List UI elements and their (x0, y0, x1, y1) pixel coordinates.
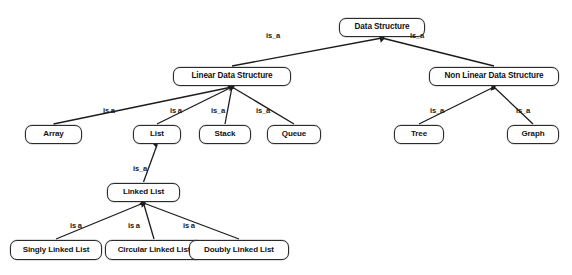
edge-linked-list-to-circular-linked-list (144, 203, 155, 239)
edge-label-linked-list-to-doubly-linked-list: is a (183, 221, 195, 230)
node-label: Doubly Linked List (201, 246, 277, 254)
edge-label-linked-list-to-circular-linked-list: is a (128, 221, 140, 230)
node-list[interactable]: List (133, 125, 181, 144)
node-label: Data Structure (351, 23, 412, 32)
node-doubly-linked-list[interactable]: Doubly Linked List (189, 240, 289, 260)
edge-label-linear-data-structure-to-list: is a (170, 106, 182, 115)
node-label: Queue (279, 130, 309, 138)
edge-label-linear-data-structure-to-queue: is_a (256, 106, 270, 115)
edge-linear-data-structure-to-array (54, 87, 233, 124)
node-label: Stack (212, 130, 239, 138)
node-label: Linked List (120, 188, 167, 196)
node-label: Tree (408, 130, 430, 138)
node-linear-data-structure[interactable]: Linear Data Structure (173, 67, 291, 86)
node-queue[interactable]: Queue (267, 125, 321, 144)
node-tree[interactable]: Tree (394, 125, 444, 144)
node-label: Singly Linked List (20, 246, 93, 254)
node-linked-list[interactable]: Linked List (107, 183, 180, 202)
edge-label-data-structure-to-linear-data-structure: is_a (266, 31, 280, 40)
diagram-canvas: Data StructureLinear Data StructureNon L… (0, 0, 572, 275)
node-graph[interactable]: Graph (507, 125, 559, 144)
edge-label-list-to-linked-list: is_a (133, 164, 147, 173)
node-singly-linked-list[interactable]: Singly Linked List (10, 240, 102, 260)
edge-label-non-linear-data-structure-to-graph: is_a (516, 106, 530, 115)
edge-linear-data-structure-to-stack (225, 87, 232, 124)
edge-label-data-structure-to-non-linear-data-structure: is_a (410, 31, 424, 40)
edge-label-linear-data-structure-to-stack: is_a (211, 106, 225, 115)
node-label: Non Linear Data Structure (442, 72, 547, 81)
edge-label-non-linear-data-structure-to-tree: is_a (430, 106, 444, 115)
edge-data-structure-to-linear-data-structure (232, 38, 382, 66)
edge-label-linked-list-to-singly-linked-list: is a (70, 221, 82, 230)
node-label: List (147, 130, 167, 138)
node-label: Circular Linked List (115, 246, 194, 254)
node-non-linear-data-structure[interactable]: Non Linear Data Structure (429, 67, 559, 86)
node-label: Graph (518, 130, 547, 138)
node-stack[interactable]: Stack (199, 125, 251, 144)
edge-data-structure-to-non-linear-data-structure (382, 38, 494, 66)
node-label: Array (40, 130, 66, 138)
node-array[interactable]: Array (25, 125, 82, 144)
edge-label-linear-data-structure-to-array: is a (103, 106, 115, 115)
node-label: Linear Data Structure (188, 72, 275, 81)
